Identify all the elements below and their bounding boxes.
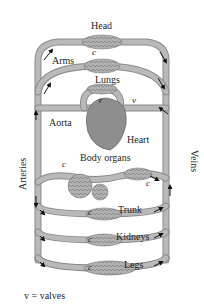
capillary-marker: c [62, 160, 66, 169]
label-arms: Arms [52, 56, 74, 66]
legend: v = valves [24, 291, 65, 301]
capillary-marker: c [88, 208, 92, 217]
capillary-marker: c [88, 235, 92, 244]
label-veins: Veins [189, 150, 200, 172]
capillary-marker: c [88, 263, 92, 272]
label-head: Head [91, 21, 112, 31]
capillary-lungs [87, 84, 117, 94]
label-arteries: Arteries [17, 158, 28, 190]
label-trunk: Trunk [118, 205, 142, 215]
capillary-marker: c [92, 48, 96, 57]
capillary-organ-2 [92, 184, 108, 200]
label-body-organs: Body organs [80, 153, 131, 163]
capillary-head [82, 35, 122, 49]
label-aorta: Aorta [49, 118, 72, 128]
label-legs: Legs [124, 260, 143, 270]
valve-marker-left: v [98, 96, 102, 105]
label-kidneys: Kidneys [116, 232, 149, 242]
capillary-arms [84, 59, 120, 73]
label-heart: Heart [127, 135, 149, 145]
capillary-marker: c [146, 179, 150, 188]
capillary-organ-1 [68, 174, 92, 198]
label-lungs: Lungs [95, 75, 120, 85]
heart [86, 98, 126, 150]
valve-marker-right: v [132, 96, 136, 105]
